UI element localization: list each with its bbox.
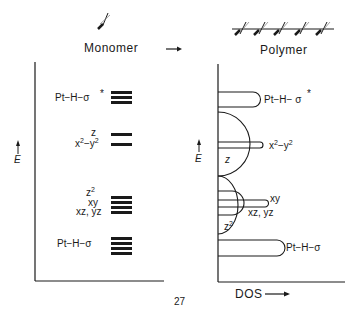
polymer-label-pt-h-sigma-star: Pt−H− σ [264,94,302,105]
monomer-level-x2-y2-z [111,133,132,146]
polymer-label-xy: xy [270,193,280,204]
polymer-label-z: z [224,154,230,165]
polymer-label-star: * [307,88,311,99]
energy-arrow-icon [16,140,20,154]
band-z [218,112,250,176]
monomer-level-pt-h-sigma-star [111,91,132,104]
monomer-label-pt-h-sigma-star: Pt−H−σ [55,92,90,103]
band-diagram: Monomer Polymer E Pt−H−σ * z [0,0,361,316]
monomer-level-d-orbitals [111,196,132,214]
monomer-label-x2-y2: x2−y2 [75,137,99,149]
monomer-energy-label: E [14,154,21,165]
polymer-label-z2: z2 [224,220,233,232]
polymer-title: Polymer [260,43,308,57]
polymer-chain-icon [232,22,334,35]
polymer-label-x2-y2: x2−y2 [269,139,293,151]
band-xz-yz [218,191,244,215]
dos-axis-label: DOS [235,287,263,301]
polymer-label-pt-h-sigma: Pt−H−σ [286,242,321,253]
energy-arrow-icon [197,139,201,152]
band-x2-y2 [218,142,263,148]
transition-arrow-icon [166,47,182,52]
page-number: 27 [174,296,186,307]
band-pt-h-sigma [218,240,285,256]
polymer-label-xz-yz: xz, yz [248,207,274,218]
dos-arrow-icon [265,292,290,297]
monomer-molecule-icon [98,13,110,29]
polymer-energy-label: E [195,153,202,164]
monomer-level-pt-h-sigma [111,237,132,255]
monomer-title: Monomer [84,41,138,55]
monomer-label-pt-h-sigma: Pt−H−σ [57,238,92,249]
band-pt-h-sigma-star [218,92,261,107]
monomer-label-xz-yz: xz, yz [76,206,102,217]
monomer-label-star: * [100,88,104,99]
